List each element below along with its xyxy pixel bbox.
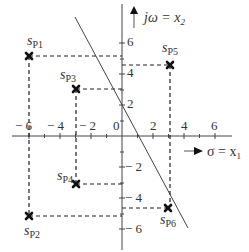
x-tick-labels: − 6 − 4 − 2 0 2 4 6 bbox=[15, 118, 218, 133]
y-axis bbox=[119, 4, 125, 250]
svg-text:2: 2 bbox=[150, 118, 157, 133]
pole-label-p6: sP6 bbox=[160, 212, 176, 229]
y-tick-labels: 6 4 2 − 2 − 4 − 6 bbox=[125, 34, 143, 236]
pole-label-p2: sP2 bbox=[24, 223, 40, 240]
svg-text:6: 6 bbox=[127, 34, 134, 49]
svg-text:2: 2 bbox=[127, 96, 134, 111]
pole-label-p5: sP5 bbox=[162, 40, 178, 57]
x-axis-arrow-icon bbox=[184, 147, 203, 155]
svg-text:− 6: − 6 bbox=[125, 221, 143, 236]
svg-text:− 4: − 4 bbox=[47, 118, 65, 133]
svg-text:0: 0 bbox=[113, 118, 120, 133]
y-axis-arrow-icon bbox=[130, 6, 138, 28]
pole-diagram: − 6 − 4 − 2 0 2 4 6 6 4 2 − 2 − 4 − 6 jω… bbox=[0, 0, 249, 252]
pole-label-p4: sP4 bbox=[57, 168, 73, 185]
svg-text:6: 6 bbox=[211, 118, 218, 133]
svg-text:− 4: − 4 bbox=[125, 190, 143, 205]
pole-label-p3: sP3 bbox=[60, 67, 76, 84]
y-axis-label: jω = x2 bbox=[142, 10, 185, 27]
svg-text:4: 4 bbox=[127, 65, 134, 80]
svg-text:− 2: − 2 bbox=[79, 118, 96, 133]
pole-label-p1: sP1 bbox=[27, 33, 43, 50]
svg-text:− 2: − 2 bbox=[125, 159, 142, 174]
svg-text:− 6: − 6 bbox=[15, 118, 33, 133]
svg-text:4: 4 bbox=[181, 118, 188, 133]
x-axis-label: σ = x1 bbox=[207, 144, 241, 161]
